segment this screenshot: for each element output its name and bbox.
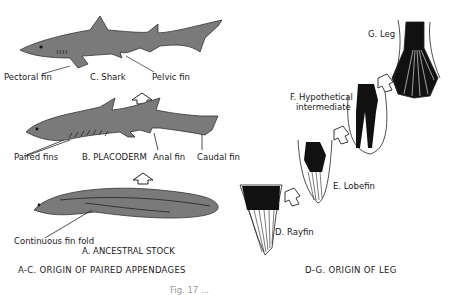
hypothetical-drawing xyxy=(348,84,387,154)
caption-origin-of-leg: D-G. ORIGIN OF LEG xyxy=(305,265,397,275)
label-paired-fins: Paired fins xyxy=(14,152,58,162)
label-pectoral-fin: Pectoral fin xyxy=(4,72,52,82)
label-leg: G. Leg xyxy=(368,29,395,39)
figure-caption-clipped: Fig. 17 ... xyxy=(170,285,209,295)
lobefin-drawing xyxy=(298,140,332,203)
placoderm-drawing xyxy=(26,98,218,140)
label-hypothetical-line2: intermediate xyxy=(296,102,351,112)
label-ancestral-title: A. ANCESTRAL STOCK xyxy=(82,246,175,256)
label-hypothetical-line1: F. Hypothetical xyxy=(290,92,353,102)
label-caudal-fin: Caudal fin xyxy=(197,152,240,162)
rayfin-drawing xyxy=(240,185,282,255)
label-placoderm-title: B. PLACODERM xyxy=(82,152,147,162)
label-shark-title: C. Shark xyxy=(90,72,126,82)
label-continuous-fin-fold: Continuous fin fold xyxy=(14,236,94,246)
label-rayfin: D. Rayfin xyxy=(275,227,314,237)
label-lobefin: E. Lobefin xyxy=(333,181,375,191)
shark-drawing xyxy=(20,16,222,68)
caption-paired-appendages: A-C. ORIGIN OF PAIRED APPENDAGES xyxy=(18,265,186,275)
label-pelvic-fin: Pelvic fin xyxy=(152,72,190,82)
leg-drawing xyxy=(392,20,440,98)
label-anal-fin: Anal fin xyxy=(153,152,185,162)
